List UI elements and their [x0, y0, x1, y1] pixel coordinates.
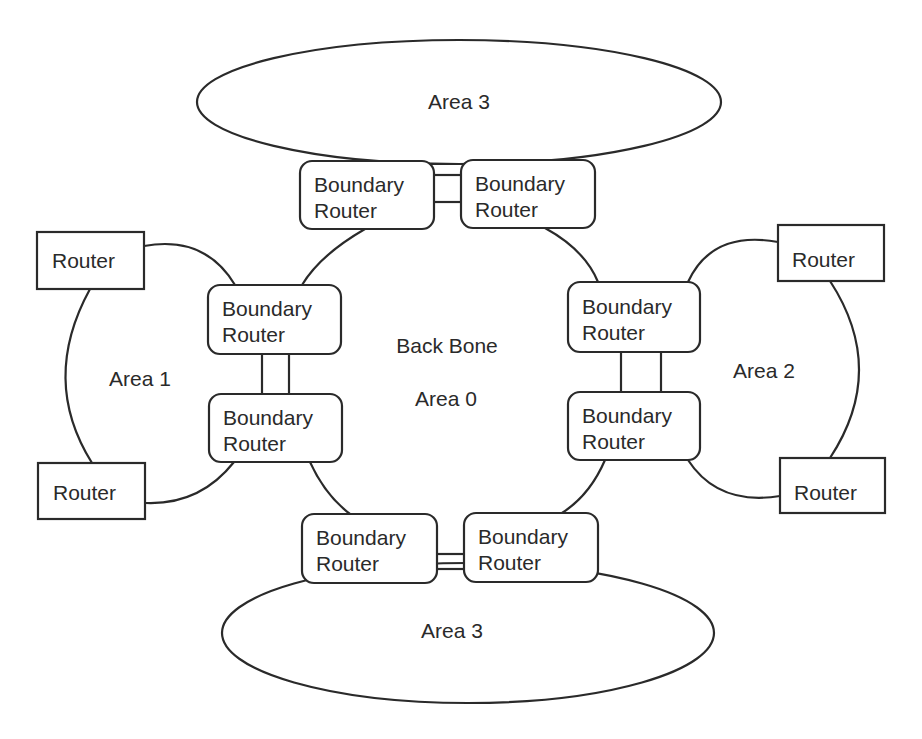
area3-bottom-label: Area 3 — [421, 619, 483, 642]
boundary-router-left-lower: Boundary Router — [209, 394, 342, 462]
router-label: Router — [792, 248, 855, 271]
boundary-router-label-line1: Boundary — [475, 172, 565, 195]
ospf-topology-diagram: Area 3 Area 3 Boundary Router Boundary R… — [0, 0, 922, 739]
boundary-router-right-upper: Boundary Router — [568, 282, 700, 352]
backbone-link-top-left — [302, 229, 365, 285]
boundary-router-label-line2: Router — [582, 430, 645, 453]
area2-label: Area 2 — [733, 359, 795, 382]
router-label: Router — [794, 481, 857, 504]
boundary-router-label-line2: Router — [314, 199, 377, 222]
area2-link-bottom — [688, 460, 780, 498]
boundary-router-label-line2: Router — [475, 198, 538, 221]
boundary-router-bottom-right: Boundary Router — [464, 513, 598, 582]
boundary-router-label-line1: Boundary — [222, 297, 312, 320]
boundary-router-left-upper: Boundary Router — [208, 285, 341, 354]
boundary-router-top-right: Boundary Router — [461, 160, 595, 228]
area1-link-top — [144, 244, 235, 285]
backbone-link-bottom-right — [562, 460, 605, 513]
boundary-router-label-line1: Boundary — [314, 173, 404, 196]
boundary-router-label-line1: Boundary — [478, 525, 568, 548]
router-area2-bottom: Router — [780, 458, 885, 513]
boundary-router-label-line1: Boundary — [316, 526, 406, 549]
boundary-router-label-line1: Boundary — [582, 295, 672, 318]
backbone-label: Back Bone — [396, 334, 498, 357]
backbone-link-bottom-left — [310, 462, 350, 514]
router-area2-top: Router — [778, 225, 884, 281]
boundary-router-bottom-left: Boundary Router — [302, 514, 437, 583]
area1-label: Area 1 — [109, 367, 171, 390]
router-area1-top: Router — [37, 232, 144, 289]
area2-link-top — [688, 240, 778, 282]
router-label: Router — [53, 481, 116, 504]
boundary-router-right-lower: Boundary Router — [568, 392, 700, 460]
area1-link-left — [65, 289, 92, 463]
boundary-router-label-line2: Router — [478, 551, 541, 574]
area0-label: Area 0 — [415, 387, 477, 410]
router-area1-bottom: Router — [38, 463, 145, 519]
router-label: Router — [52, 249, 115, 272]
boundary-router-label-line2: Router — [316, 552, 379, 575]
boundary-router-top-left: Boundary Router — [300, 161, 434, 229]
boundary-router-label-line1: Boundary — [582, 404, 672, 427]
boundary-router-label-line2: Router — [223, 432, 286, 455]
area1-link-bottom — [146, 462, 234, 503]
area2-link-right — [830, 281, 859, 458]
area3-top-label: Area 3 — [428, 90, 490, 113]
boundary-router-label-line2: Router — [222, 323, 285, 346]
backbone-link-top-right — [545, 228, 598, 282]
boundary-router-label-line2: Router — [582, 321, 645, 344]
boundary-router-label-line1: Boundary — [223, 406, 313, 429]
